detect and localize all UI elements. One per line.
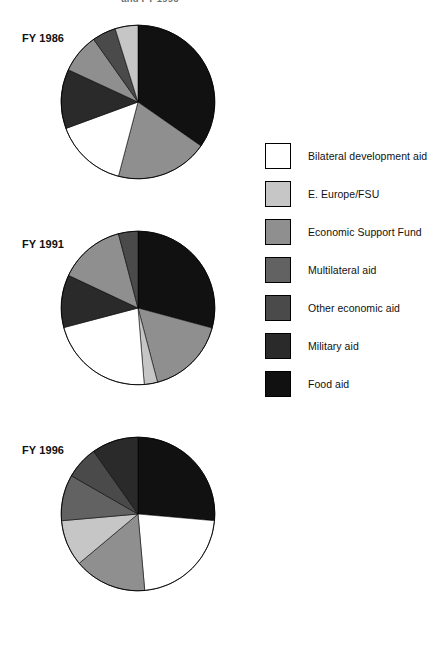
legend-swatch-icon [265,257,291,283]
legend-swatch-icon [265,295,291,321]
legend-label: Food aid [308,378,349,390]
legend-swatch-icon [265,219,291,245]
pie-slices-3 [61,437,215,591]
legend-item-food-aid: Food aid [265,365,437,403]
pie-block-3: FY 1996 [0,432,260,640]
pie-chart-1 [58,22,218,182]
legend-swatch-icon [265,333,291,359]
pie-chart-2 [58,228,218,388]
legend-item-e-europe-fsu: E. Europe/FSU [265,175,437,213]
pie-svg-2 [58,228,218,388]
pie-svg-1 [58,22,218,182]
pie-slice [138,437,215,521]
figure-caption: and FY 1996 [0,0,300,4]
legend-swatch-icon [265,181,291,207]
legend-item-economic-support-fund: Economic Support Fund [265,213,437,251]
legend-item-military-aid: Military aid [265,327,437,365]
pie-block-2: FY 1991 [0,226,260,434]
legend-label: E. Europe/FSU [308,188,379,200]
legend-item-other-economic-aid: Other economic aid [265,289,437,327]
pie-block-1: FY 1986 [0,20,260,228]
legend: Bilateral development aid E. Europe/FSU … [265,137,437,403]
legend-label: Other economic aid [308,302,400,314]
legend-label: Military aid [308,340,359,352]
legend-label: Economic Support Fund [308,226,422,238]
legend-swatch-icon [265,371,291,397]
figure-aid-composition-pies: and FY 1996 FY 1986 FY 1991 FY 1996 [0,0,437,647]
pie-slices-2 [61,231,215,385]
pie-slices-1 [61,25,215,179]
legend-label: Bilateral development aid [308,150,427,162]
pie-chart-3 [58,434,218,594]
legend-item-multilateral-aid: Multilateral aid [265,251,437,289]
pie-slice [138,514,215,591]
pie-svg-3 [58,434,218,594]
legend-label: Multilateral aid [308,264,377,276]
legend-item-bilateral-development-aid: Bilateral development aid [265,137,437,175]
legend-swatch-icon [265,143,291,169]
